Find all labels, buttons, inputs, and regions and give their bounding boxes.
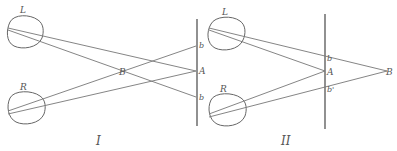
caption-I: I (95, 134, 101, 148)
label-A-I: A (198, 66, 206, 76)
label-b-top-I: b (199, 41, 204, 50)
ray-L-to-b-bottom-I (8, 30, 196, 97)
right-eye-I (8, 92, 45, 124)
ray-L-to-A-I (8, 28, 196, 71)
label-L-I: L (19, 5, 26, 15)
right-eye-II (209, 94, 246, 126)
ray-R-to-B-II (209, 71, 387, 117)
label-B-I: B (118, 67, 126, 77)
label-b-top-II: b (327, 54, 332, 63)
label-R-I: R (19, 82, 27, 92)
caption-II: II (280, 134, 291, 148)
label-A-II: A (326, 67, 334, 77)
label-L-II: L (221, 7, 228, 17)
binocular-vision-diagram: L R B b A b I L R b A b' B II (0, 0, 397, 151)
left-eye-II (208, 17, 245, 50)
ray-R-to-A-I (8, 71, 196, 114)
label-B-II: B (385, 67, 393, 77)
figure-II: L R b A b' B II (208, 7, 393, 148)
label-b-prime-II: b' (327, 85, 334, 94)
figure-I: L R B b A b I (7, 5, 206, 148)
label-R-II: R (219, 84, 227, 94)
ray-R-to-b-top-I (8, 46, 196, 111)
ray-L-to-A-II (209, 30, 325, 71)
ray-L-to-B-II (209, 28, 387, 71)
label-b-bottom-I: b (199, 93, 204, 102)
